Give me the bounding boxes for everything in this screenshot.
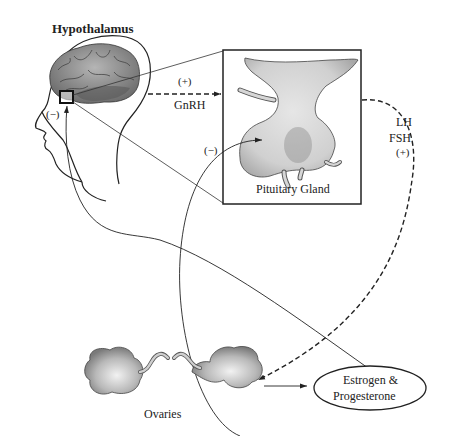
diagram-canvas [0, 0, 450, 436]
pituitary-label: Pituitary Gland [256, 183, 330, 195]
gnrh-sign: (+) [178, 76, 192, 87]
ovaries-label: Ovaries [144, 408, 181, 420]
lh-fsh-sign: (+) [396, 147, 410, 158]
zoom-line-bottom [73, 102, 223, 203]
hypothalamus-label: Hypothalamus [52, 22, 134, 35]
neg-sign-hypothalamus: (−) [46, 109, 60, 120]
hypothalamus-box [60, 91, 73, 103]
ovaries-illustration [85, 347, 263, 395]
neg-sign-pituitary: (−) [204, 145, 218, 156]
gnrh-label: GnRH [174, 99, 205, 111]
fsh-label: FSH [389, 132, 411, 144]
hpg-axis-diagram: Hypothalamus (+) GnRH (−) (−) Pituitary … [0, 0, 450, 436]
hormones-label-line2: Progesterone [333, 390, 396, 402]
lh-label: LH [396, 116, 412, 128]
hormones-label-line1: Estrogen & [343, 374, 398, 386]
